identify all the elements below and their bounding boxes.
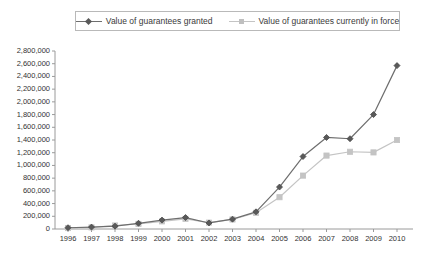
- x-axis-tick-label: 2006: [295, 235, 312, 243]
- legend-label-guarantees-granted: Value of guarantees granted: [106, 16, 213, 26]
- x-axis-tick-label: 1998: [107, 235, 124, 243]
- plot-area: 0200,000400,000600,000800,0001,000,0001,…: [0, 38, 425, 264]
- x-axis-labels: 1996199719981999200020012002200320042005…: [0, 38, 425, 264]
- x-axis-tick-label: 2008: [342, 235, 359, 243]
- legend-entry-guarantees-in-force: Value of guarantees currently in force: [229, 16, 400, 26]
- x-axis-tick-label: 2001: [177, 235, 194, 243]
- x-axis-tick-label: 1996: [60, 235, 77, 243]
- x-axis-tick-label: 2007: [318, 235, 335, 243]
- diamond-marker-icon: [76, 17, 102, 26]
- chart-legend: Value of guarantees granted Value of gua…: [75, 11, 400, 31]
- x-axis-tick-label: 2002: [201, 235, 218, 243]
- x-axis-tick-label: 2004: [248, 235, 265, 243]
- guarantees-line-chart: Value of guarantees granted Value of gua…: [0, 0, 425, 264]
- x-axis-tick-label: 2000: [154, 235, 171, 243]
- x-axis-tick-label: 1999: [130, 235, 147, 243]
- x-axis-tick-label: 2003: [224, 235, 241, 243]
- x-axis-tick-label: 2009: [365, 235, 382, 243]
- legend-entry-guarantees-granted: Value of guarantees granted: [76, 16, 213, 26]
- square-marker-icon: [229, 17, 255, 26]
- legend-label-guarantees-in-force: Value of guarantees currently in force: [259, 16, 400, 26]
- x-axis-tick-label: 1997: [83, 235, 100, 243]
- x-axis-tick-label: 2010: [389, 235, 406, 243]
- x-axis-tick-label: 2005: [271, 235, 288, 243]
